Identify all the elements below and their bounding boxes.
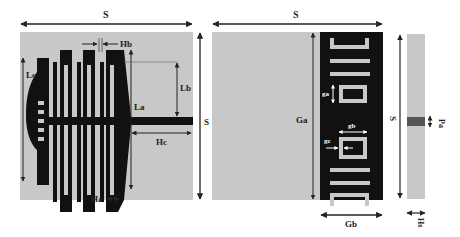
label-Lb: Lb — [180, 83, 191, 93]
label-La: La — [134, 102, 145, 112]
label-Ga: Ga — [296, 115, 308, 125]
label-Hs: Hs — [416, 218, 425, 227]
label-gc: gc — [324, 137, 331, 145]
front-view-panel: S S Lc Hb La Lb Hc Ha — [20, 9, 209, 212]
thin-strips — [53, 62, 57, 202]
feed-port — [407, 117, 425, 126]
side-substrate — [407, 34, 425, 199]
label-ga: ga — [322, 90, 330, 98]
ground-strip — [320, 32, 383, 200]
label-Lc: Lc — [26, 70, 36, 80]
label-S-right: S — [204, 117, 209, 127]
label-gb: gb — [348, 122, 356, 130]
label-S-top: S — [103, 9, 109, 20]
label-Pa: Pa — [437, 119, 446, 128]
label-Gb: Gb — [345, 219, 357, 229]
antenna-geometry-diagram: S S Lc Hb La Lb Hc Ha — [0, 0, 460, 237]
back-view-panel: S Ga Gb ga gb gc — [212, 9, 383, 229]
label-Hb: Hb — [120, 39, 132, 49]
label-S-top-back: S — [293, 9, 299, 20]
label-S-side: S — [388, 116, 398, 121]
label-Hc: Hc — [156, 137, 167, 147]
side-view-panel: S Pa Hs — [388, 34, 446, 227]
label-Ha: Ha — [91, 194, 103, 204]
